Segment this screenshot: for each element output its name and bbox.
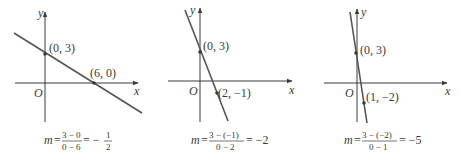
panel-1: y x O (0, 3) (6, 0) m = 3 − 0 0 − 6 = − … [14,6,142,152]
svg-text:0 − 6: 0 − 6 [62,142,81,152]
x-axis-label: x [444,84,451,98]
slope-formula: m = 3 − (−1) 0 − 2 = −2 [191,130,269,152]
origin-label: O [345,86,354,100]
panel-2: y x O (0, 3) (2, −1) m = 3 − (−1) 0 − 2 … [168,3,295,152]
slope-formula: m = 3 − (−2) 0 − 1 = −5 [344,130,422,152]
point-6-0 [92,81,96,85]
point-label: (0, 3) [360,43,386,57]
svg-text:0 − 2: 0 − 2 [216,142,235,152]
x-axis-label: x [288,83,295,97]
y-axis-label: y [360,5,367,19]
svg-text:=: = [54,133,61,147]
point-label: (2, −1) [218,86,251,100]
point-0-3 [43,52,47,56]
svg-text:0 − 1: 0 − 1 [369,142,388,152]
svg-text:=: = [201,133,208,147]
svg-text:m: m [344,133,353,147]
svg-text:= −2: = −2 [246,133,269,147]
panel-3: y x O (0, 3) (1, −2) m = 3 − (−2) 0 − 1 … [324,5,451,152]
point-label: (0, 3) [203,39,229,53]
point-label: (1, −2) [366,90,399,104]
svg-text:3 − 0: 3 − 0 [62,130,81,140]
line-slope-neg-5 [350,12,367,123]
svg-text:= −: = − [83,133,100,147]
x-axis-label: x [133,84,140,98]
origin-label: O [34,86,43,100]
point-label: (0, 3) [49,41,75,55]
slope-formula: m = 3 − 0 0 − 6 = − 1 2 [44,130,112,152]
point-0-3 [198,50,202,54]
svg-text:3 − (−1): 3 − (−1) [209,130,239,140]
svg-text:3 − (−2): 3 − (−2) [362,130,392,140]
point-label: (6, 0) [90,66,116,80]
svg-text:=: = [354,133,361,147]
line-slope-neg-2 [185,10,228,121]
svg-text:1: 1 [106,130,111,140]
line-slope-neg-half [14,33,142,113]
y-axis-label: y [189,3,196,17]
svg-text:= −5: = −5 [399,133,422,147]
svg-text:m: m [44,133,53,147]
y-axis-label: y [37,6,44,20]
slope-diagrams: y x O (0, 3) (6, 0) m = 3 − 0 0 − 6 = − … [0,0,460,160]
point-0-3 [354,51,358,55]
svg-text:2: 2 [106,142,111,152]
origin-label: O [189,84,198,98]
svg-text:m: m [191,133,200,147]
